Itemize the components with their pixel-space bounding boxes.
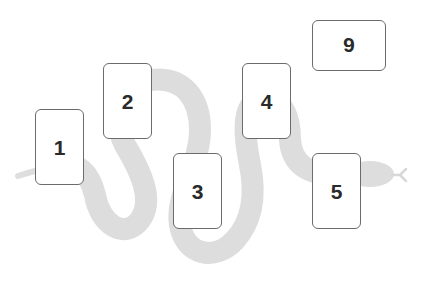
card-6: 6 [312,20,386,71]
card-4: 4 [242,63,291,139]
card-6-label: 6 [343,35,355,56]
card-3: 3 [173,153,222,229]
card-3-label: 3 [192,181,204,202]
card-4-label: 4 [261,91,273,112]
card-5-label: 5 [331,181,343,202]
card-1-label: 1 [54,137,66,158]
snake-tongue [392,169,406,181]
card-5: 5 [312,153,361,229]
card-2-label: 2 [122,91,134,112]
card-2: 2 [103,63,152,139]
card-1: 1 [35,109,84,185]
